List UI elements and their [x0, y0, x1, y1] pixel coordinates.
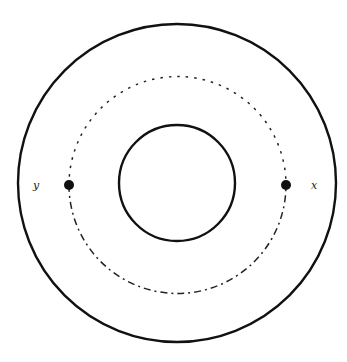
point-y — [64, 180, 74, 190]
lower-dashdot-path — [69, 185, 286, 293]
inner-circle — [119, 125, 235, 241]
point-x — [281, 180, 291, 190]
upper-dotted-path — [69, 77, 286, 185]
label-x: x — [311, 179, 318, 192]
label-y: y — [32, 179, 40, 192]
annulus-diagram: y x — [0, 0, 347, 362]
